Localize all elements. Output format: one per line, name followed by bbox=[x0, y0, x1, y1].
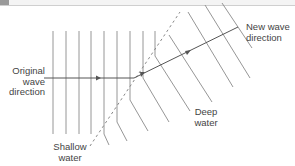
label-line: water bbox=[50, 153, 90, 164]
label-original-direction: Original wave direction bbox=[5, 66, 45, 98]
label-line: water bbox=[189, 118, 223, 129]
boundary-dashed-line bbox=[90, 12, 180, 146]
label-line: Shallow bbox=[50, 142, 90, 153]
label-line: Original bbox=[5, 66, 45, 77]
label-line: direction bbox=[246, 33, 290, 44]
label-line: direction bbox=[5, 87, 45, 98]
label-line: Deep bbox=[189, 107, 223, 118]
original-ray-arrow bbox=[96, 76, 101, 81]
deep-wavefronts bbox=[104, 3, 252, 145]
label-deep-water: Deep water bbox=[189, 107, 223, 128]
shallow-wavefronts bbox=[53, 31, 155, 134]
label-new-direction: New wave direction bbox=[246, 22, 290, 43]
label-shallow-water: Shallow water bbox=[50, 142, 90, 163]
label-line: New wave bbox=[246, 22, 290, 33]
junction-arrow bbox=[140, 72, 145, 77]
refracted-ray-arrow bbox=[185, 50, 191, 55]
